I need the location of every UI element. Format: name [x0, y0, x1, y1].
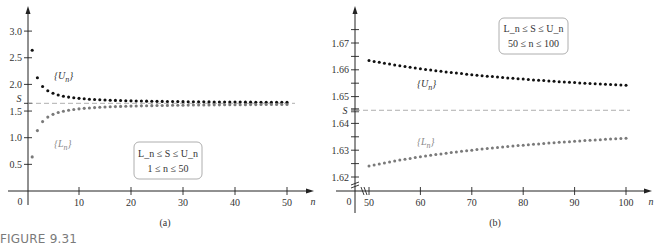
data-point-lower — [285, 103, 288, 106]
data-point-lower — [614, 137, 617, 140]
data-point-upper — [98, 98, 101, 101]
data-point-lower — [450, 151, 453, 154]
x-axis-arrow-icon — [306, 189, 314, 194]
x-tick-label: 10 — [74, 197, 84, 208]
data-point-upper — [604, 83, 607, 86]
data-point-lower — [537, 142, 540, 145]
x-tick-label: 60 — [415, 197, 425, 208]
data-point-lower — [259, 103, 262, 106]
data-point-lower — [57, 111, 60, 114]
data-point-lower — [244, 103, 247, 106]
data-point-lower — [249, 103, 252, 106]
series-label-lower: {Ln} — [417, 136, 435, 150]
data-point-lower — [171, 104, 174, 107]
data-point-lower — [176, 104, 179, 107]
data-point-lower — [31, 155, 34, 158]
panel-a: 0.51.01.52.02.53.0 1020304050 S {Un} {Ln… — [8, 6, 316, 229]
data-point-upper — [228, 101, 231, 104]
data-point-upper — [161, 100, 164, 103]
y-tick-label: 1.67 — [332, 38, 350, 49]
data-point-upper — [62, 95, 65, 98]
data-point-lower — [280, 103, 283, 106]
series-label-upper: {Un} — [54, 70, 73, 84]
series-label-upper: {Un} — [417, 78, 436, 92]
data-point-lower — [563, 140, 566, 143]
data-point-upper — [51, 92, 54, 95]
data-point-lower — [83, 107, 86, 110]
data-point-lower — [197, 103, 200, 106]
data-point-lower — [36, 129, 39, 132]
data-point-upper — [368, 59, 371, 62]
series-lower — [368, 137, 628, 168]
data-point-upper — [398, 64, 401, 67]
data-point-lower — [88, 106, 91, 109]
data-point-upper — [176, 100, 179, 103]
data-point-upper — [553, 80, 556, 83]
data-point-lower — [609, 138, 612, 141]
data-point-lower — [496, 146, 499, 149]
data-point-lower — [604, 138, 607, 141]
data-point-upper — [419, 67, 422, 70]
data-point-upper — [506, 76, 509, 79]
data-point-lower — [470, 149, 473, 152]
data-point-lower — [373, 163, 376, 166]
data-point-upper — [501, 76, 504, 79]
data-point-lower — [368, 165, 371, 168]
data-point-upper — [537, 79, 540, 82]
data-point-lower — [98, 106, 101, 109]
data-point-upper — [213, 100, 216, 103]
data-point-lower — [114, 105, 117, 108]
x-tick-label: 70 — [467, 197, 477, 208]
data-point-lower — [419, 155, 422, 158]
data-point-upper — [166, 100, 169, 103]
data-point-lower — [393, 160, 396, 163]
data-point-upper — [532, 78, 535, 81]
data-point-upper — [218, 100, 221, 103]
data-point-lower — [568, 140, 571, 143]
data-point-upper — [388, 63, 391, 66]
data-point-upper — [83, 97, 86, 100]
data-point-upper — [103, 98, 106, 101]
data-point-upper — [67, 96, 70, 99]
data-point-lower — [161, 104, 164, 107]
data-point-upper — [583, 82, 586, 85]
data-point-upper — [119, 99, 122, 102]
y-tick-label: 3.0 — [10, 26, 23, 37]
data-point-upper — [563, 80, 566, 83]
data-point-lower — [62, 110, 65, 113]
data-point-lower — [599, 138, 602, 141]
data-point-upper — [88, 98, 91, 101]
x-tick-label: 80 — [518, 197, 528, 208]
y-tick-label: 0.5 — [10, 159, 23, 170]
data-point-upper — [114, 99, 117, 102]
data-point-upper — [486, 75, 489, 78]
reference-label-s: S — [17, 93, 22, 104]
data-point-lower — [218, 103, 221, 106]
data-point-lower — [522, 144, 525, 147]
x-tick-label: 30 — [178, 197, 188, 208]
data-point-lower — [109, 105, 112, 108]
data-point-upper — [455, 72, 458, 75]
data-point-lower — [511, 145, 514, 148]
data-point-lower — [155, 104, 158, 107]
data-point-upper — [578, 81, 581, 84]
data-point-upper — [522, 78, 525, 81]
data-point-lower — [589, 139, 592, 142]
data-point-lower — [213, 103, 216, 106]
data-point-lower — [424, 155, 427, 158]
data-point-upper — [450, 71, 453, 74]
data-point-upper — [470, 73, 473, 76]
data-point-lower — [202, 103, 205, 106]
data-point-upper — [393, 63, 396, 66]
data-point-upper — [599, 83, 602, 86]
data-point-upper — [625, 84, 628, 87]
x-tick-label: 40 — [230, 197, 240, 208]
data-point-lower — [481, 148, 484, 151]
x-tick-label: 90 — [570, 197, 580, 208]
data-point-upper — [202, 100, 205, 103]
data-point-upper — [197, 100, 200, 103]
data-point-lower — [619, 137, 622, 140]
data-point-lower — [41, 120, 44, 123]
data-point-lower — [445, 152, 448, 155]
data-point-lower — [409, 157, 412, 160]
